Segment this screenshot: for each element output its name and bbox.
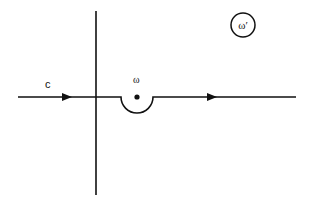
pole-label: ω	[133, 74, 140, 85]
contour-label: c	[45, 78, 51, 90]
plane-label: ω′	[238, 19, 248, 31]
contour-diagram: c ω ω′	[0, 0, 312, 208]
contour-path	[18, 97, 296, 113]
arrow-left-icon	[62, 93, 72, 101]
arrow-right-icon	[207, 93, 217, 101]
pole-point	[134, 94, 139, 99]
